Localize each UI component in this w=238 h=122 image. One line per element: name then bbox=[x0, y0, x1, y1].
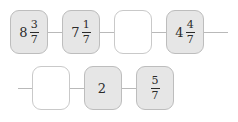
connector-1-2 bbox=[48, 32, 62, 33]
connector-3-4 bbox=[152, 32, 166, 33]
whole-part-1: 8 bbox=[19, 26, 27, 39]
connector-row1-wrap-out bbox=[204, 32, 228, 33]
numerator-1: 3 bbox=[30, 19, 39, 31]
sequence-term-2[interactable]: 7 1 7 bbox=[62, 10, 100, 54]
whole-part-2: 7 bbox=[71, 26, 79, 39]
sequence-term-4[interactable]: 4 4 7 bbox=[166, 10, 204, 54]
fraction-1: 3 7 bbox=[30, 19, 39, 45]
connector-row2-wrap-in bbox=[18, 88, 32, 89]
mixed-number-1: 8 3 7 bbox=[19, 19, 38, 45]
connector-5-6 bbox=[70, 88, 84, 89]
fraction-only-7: 5 7 bbox=[151, 75, 160, 101]
sequence-row-1: 8 3 7 7 1 7 bbox=[10, 8, 228, 56]
sequence-term-7[interactable]: 5 7 bbox=[136, 66, 174, 110]
whole-part-4: 4 bbox=[175, 26, 183, 39]
numerator-4: 4 bbox=[186, 19, 195, 31]
sequence-term-1[interactable]: 8 3 7 bbox=[10, 10, 48, 54]
fraction-2: 1 7 bbox=[82, 19, 91, 45]
number-sequence-figure: 8 3 7 7 1 7 bbox=[0, 0, 238, 122]
numerator-2: 1 bbox=[82, 19, 91, 31]
mixed-number-2: 7 1 7 bbox=[71, 19, 90, 45]
sequence-term-3-blank[interactable] bbox=[114, 10, 152, 54]
sequence-row-2: 2 5 7 bbox=[18, 64, 174, 112]
sequence-term-5-blank[interactable] bbox=[32, 66, 70, 110]
numerator-7: 5 bbox=[151, 75, 160, 87]
connector-6-7 bbox=[122, 88, 136, 89]
mixed-number-4: 4 4 7 bbox=[175, 19, 194, 45]
fraction-7: 5 7 bbox=[151, 75, 160, 101]
sequence-term-6[interactable]: 2 bbox=[84, 66, 122, 110]
denominator-2: 7 bbox=[82, 34, 91, 46]
connector-2-3 bbox=[100, 32, 114, 33]
denominator-7: 7 bbox=[151, 90, 160, 102]
denominator-1: 7 bbox=[30, 34, 39, 46]
fraction-4: 4 7 bbox=[186, 19, 195, 45]
whole-number-6: 2 bbox=[98, 82, 108, 95]
denominator-4: 7 bbox=[186, 34, 195, 46]
whole-part-6: 2 bbox=[98, 82, 106, 95]
